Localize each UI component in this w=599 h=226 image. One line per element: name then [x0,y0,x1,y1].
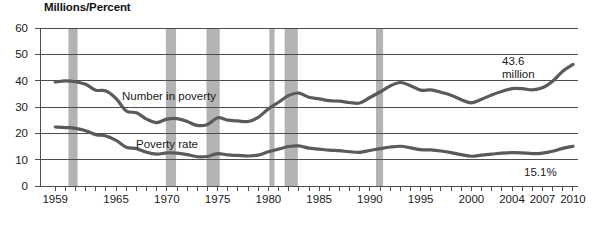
poverty-chart: Millions/Percent 0102030405060 Number in… [0,0,599,226]
data-series [55,64,573,157]
x-tick-label: 1995 [408,193,434,205]
x-tick-label: 1985 [306,193,332,205]
x-tick-label: 1970 [154,193,180,205]
series-line-poverty-rate [55,127,573,157]
annotation-poverty-rate: 15.1% [524,166,557,178]
y-axis-ticks [35,28,40,186]
annotation-number-value: 43.6 [502,55,535,68]
x-tick-label: 1980 [256,193,282,205]
annotation-number-unit: million [502,68,535,81]
annotation-number-in-poverty: 43.6 million [502,55,535,80]
x-tick-label: 1975 [205,193,231,205]
x-axis-ticks [55,186,573,191]
x-tick-label: 2000 [459,193,485,205]
x-tick-label: 1959 [42,193,68,205]
series-label-poverty-rate: Poverty rate [136,138,198,150]
x-tick-label: 2010 [560,193,586,205]
x-tick-label: 1965 [103,193,129,205]
series-label-number-in-poverty: Number in poverty [122,90,216,102]
x-tick-label: 2007 [530,193,556,205]
x-tick-label: 2004 [499,193,525,205]
x-tick-label: 1990 [357,193,383,205]
